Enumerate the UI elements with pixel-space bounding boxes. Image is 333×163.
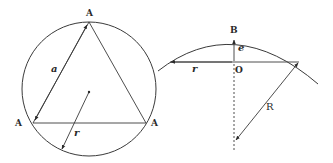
circumcircle: [22, 22, 156, 156]
sagitta-figure: B O e r R: [158, 25, 318, 152]
half-chord-label: r: [192, 63, 198, 74]
center-point: [88, 91, 90, 93]
inscribed-triangle-figure: A A A a r: [14, 8, 159, 156]
diagram-canvas: A A A a r B O e r R: [0, 0, 333, 163]
point-O-label: O: [235, 65, 243, 75]
radius-r-arrow: [62, 92, 89, 149]
vertex-label-left: A: [14, 118, 23, 128]
sagitta-label: e: [238, 42, 244, 53]
vertex-label-right: A: [150, 118, 159, 128]
point-B-label: B: [230, 25, 238, 35]
equilateral-triangle: [33, 22, 146, 123]
side-a-arrow: [35, 25, 87, 120]
radius-R-label: R: [266, 101, 274, 112]
radius-label: r: [74, 127, 80, 138]
side-label: a: [51, 63, 57, 74]
vertex-label-top: A: [85, 8, 94, 18]
